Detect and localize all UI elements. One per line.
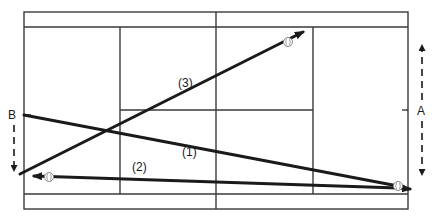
shot-1: (1) (24, 115, 398, 186)
position-b-label: B (8, 108, 16, 122)
shot-2-label: (2) (132, 160, 147, 174)
shot-3-path (20, 32, 303, 174)
shot-3: (3) (20, 32, 303, 174)
shot-3-label: (3) (178, 76, 193, 90)
position-a-label: A (417, 104, 425, 118)
court (24, 12, 408, 209)
shot-1-label: (1) (182, 145, 197, 159)
tennis-ball-icon (284, 38, 293, 47)
tennis-court-diagram: B A (1) (2) (3) (0, 0, 435, 221)
position-b: B (8, 108, 31, 170)
tennis-ball-icon (45, 173, 54, 182)
position-a: A (402, 46, 425, 174)
shot-1-path (24, 115, 398, 186)
tennis-ball-icon (394, 182, 403, 191)
